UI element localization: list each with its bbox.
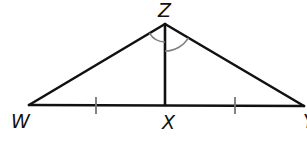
segment-wy bbox=[29, 105, 304, 106]
angle-arc-xzy bbox=[165, 38, 188, 51]
angle-arc-wzx bbox=[150, 33, 166, 42]
segment-zy bbox=[165, 24, 304, 106]
vertex-label-w: W bbox=[11, 110, 31, 132]
segment-wz bbox=[29, 24, 165, 105]
vertex-label-z: Z bbox=[157, 0, 172, 21]
vertex-label-y: Y bbox=[303, 110, 307, 132]
triangle-diagram: Z W X Y bbox=[0, 0, 307, 157]
vertex-label-x: X bbox=[161, 111, 176, 133]
